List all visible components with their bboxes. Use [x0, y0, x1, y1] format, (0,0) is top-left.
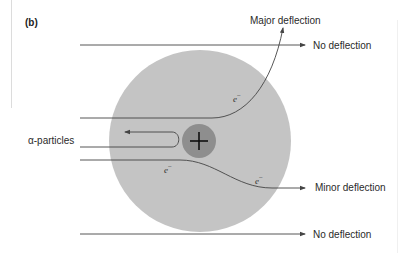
electron-label: e− [255, 174, 263, 186]
electron-label: e− [233, 92, 241, 104]
label-minor-deflection: Minor deflection [315, 183, 386, 193]
electron-label: e− [164, 163, 172, 175]
label-major-deflection: Major deflection [250, 16, 321, 26]
label-no-deflection-top: No deflection [313, 41, 371, 51]
rutherford-diagram [0, 0, 412, 253]
label-no-deflection-bottom: No deflection [313, 230, 371, 240]
label-alpha-particles: α-particles [28, 136, 74, 146]
